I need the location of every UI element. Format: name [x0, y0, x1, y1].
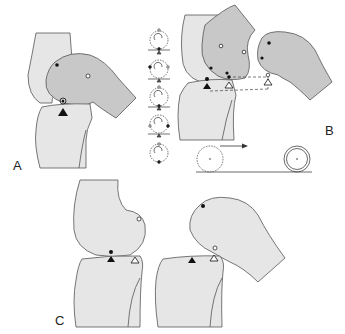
panel-b-roll-spin: [196, 144, 312, 173]
femur-c-left: [74, 180, 146, 257]
rolling-circle-5: [150, 143, 168, 164]
rolling-circle-1: [148, 29, 170, 54]
femur-open-dot-right-b: [266, 73, 270, 77]
femur-open-dot-b1: [219, 44, 223, 48]
panel-b-knee: [178, 5, 332, 140]
femur-dot-right-b2: [260, 56, 263, 59]
tibia-triangle-right-b: [264, 79, 272, 85]
contact-dot-a: [62, 100, 64, 102]
contact-dot-c-left: [109, 250, 113, 254]
contact-dot-b2: [227, 75, 231, 79]
tibia-c-left: [74, 256, 143, 327]
femur-contact-dot-a: [55, 63, 59, 67]
motion-arrow-head: [242, 144, 248, 149]
panel-b-rolling-sequence: [148, 29, 170, 164]
rolling-circle-3: [148, 86, 170, 110]
panel-label-a: A: [13, 158, 22, 173]
contact-dot-b1: [205, 77, 209, 81]
femur-open-dot-c-right: [213, 246, 217, 250]
femur-open-dot-c-left: [137, 217, 141, 221]
femur-open-dot-a: [86, 74, 90, 78]
panel-c-left-knee: [74, 180, 146, 327]
panel-label-b: B: [325, 123, 334, 138]
rolling-circle-4: [148, 115, 170, 137]
femur-dot-right-b1: [267, 41, 271, 45]
panel-label-c: C: [55, 313, 64, 328]
femur-dot-b1: [209, 66, 212, 69]
panel-c-right-knee: [155, 197, 285, 327]
knee-mechanics-diagram: [0, 0, 345, 334]
femur-dot-c-right: [201, 204, 205, 208]
rolling-circle-2: [148, 60, 170, 82]
femur-open-dot-b2: [242, 50, 246, 54]
femur-dot-b2: [225, 71, 228, 74]
tibia-c-right: [155, 256, 223, 327]
panel-a: [28, 33, 136, 168]
